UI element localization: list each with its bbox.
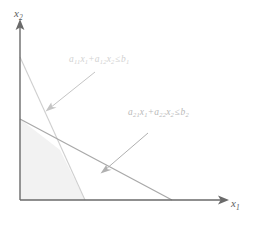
c2-term2-coef-sub: 22 [159, 111, 166, 118]
constraint-2-annotation-arrow-shaft [105, 133, 148, 170]
c1-term2-coef-sub: 12 [100, 58, 107, 65]
constraint-2-label: a21x1+a22x2≤b2 [128, 108, 189, 118]
x-axis-label-subscript: 1 [236, 203, 240, 212]
c2-rhs-sub: 2 [185, 111, 188, 118]
c1-rhs-sub: 1 [126, 58, 129, 65]
c2-term1-var-sub: 1 [144, 111, 147, 118]
x-axis-label: x1 [231, 198, 240, 209]
c1-term1-var-sub: 1 [85, 58, 88, 65]
lp-feasible-region-figure: a11x1+a12x2≤b1 a21x1+a22x2≤b2 x2 x1 [0, 0, 257, 227]
c1-term1-coef-sub: 11 [74, 58, 80, 65]
constraint-1-label: a11x1+a12x2≤b1 [69, 55, 129, 65]
constraint-1-annotation-arrow-shaft [50, 72, 95, 108]
c2-term1-coef-sub: 21 [133, 111, 140, 118]
y-axis-label: x2 [14, 8, 23, 19]
feasible-region-fill [20, 119, 85, 200]
c2-term2-var-sub: 2 [171, 111, 174, 118]
c1-term2-var-sub: 2 [111, 58, 114, 65]
y-axis-label-subscript: 2 [19, 13, 23, 22]
c2-term2-var: x [166, 107, 170, 117]
